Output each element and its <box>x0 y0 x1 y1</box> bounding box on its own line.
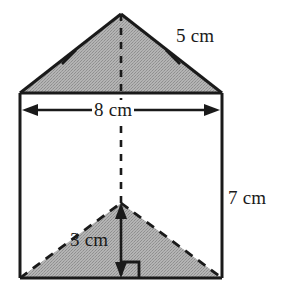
geometry-figure: 5 cm 8 cm 7 cm 3 cm <box>0 0 294 301</box>
base-width-label: 8 cm <box>92 100 134 119</box>
triangle-height-label: 3 cm <box>70 230 108 249</box>
prism-height-label: 7 cm <box>228 188 266 207</box>
prism-drawing <box>0 0 294 301</box>
slant-side-label: 5 cm <box>176 26 214 45</box>
